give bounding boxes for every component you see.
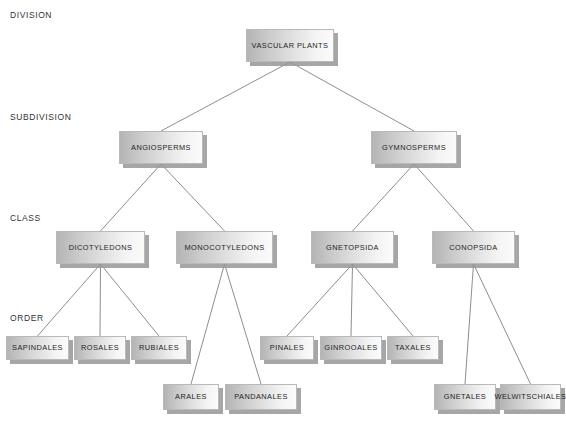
rank-label-order: ORDER: [10, 313, 44, 323]
node-label-sapindales: SAPINDALES: [12, 344, 63, 351]
node-label-angiosperms: ANGIOSPERMS: [131, 144, 191, 151]
node-taxales[interactable]: TAXALES: [387, 336, 439, 360]
edge-conopsida-to-welwitschiales: [474, 264, 531, 384]
edge-gymnosperms-to-gnetopsida: [353, 164, 415, 231]
edge-angiosperms-to-monocotyledons: [161, 164, 225, 231]
node-arales[interactable]: ARALES: [163, 384, 219, 410]
node-gnetales[interactable]: GNETALES: [434, 384, 496, 410]
edge-gnetopsida-to-pinales: [287, 264, 353, 336]
node-label-arales: ARALES: [175, 393, 207, 400]
node-welwitschiales[interactable]: WELWITSCHIALES: [500, 384, 561, 410]
edge-vascular-plants-to-angiosperms: [161, 62, 290, 131]
node-label-pinales: PINALES: [270, 344, 304, 351]
edge-vascular-plants-to-gymnosperms: [290, 62, 414, 131]
edge-gnetopsida-to-taxales: [353, 264, 414, 336]
node-gymnosperms[interactable]: GYMNOSPERMS: [371, 131, 457, 164]
edge-angiosperms-to-dicotyledons: [101, 164, 162, 231]
edge-monocotyledons-to-pandanales: [225, 264, 262, 384]
node-label-vascular-plants: VASCULAR PLANTS: [252, 42, 329, 49]
node-sapindales[interactable]: SAPINDALES: [6, 336, 69, 360]
node-label-dicotyledons: DICOTYLEDONS: [69, 244, 133, 251]
node-label-gnetales: GNETALES: [444, 393, 486, 400]
node-label-gymnosperms: GYMNOSPERMS: [382, 144, 446, 151]
edge-dicotyledons-to-sapindales: [38, 264, 101, 336]
node-dicotyledons[interactable]: DICOTYLEDONS: [56, 231, 145, 264]
node-rubiales[interactable]: RUBIALES: [131, 336, 187, 360]
rank-label-class: CLASS: [10, 213, 41, 223]
rank-label-subdivision: SUBDIVISION: [10, 112, 71, 122]
node-conopsida[interactable]: CONOPSIDA: [432, 231, 515, 264]
node-gnetopsida[interactable]: GNETOPSIDA: [311, 231, 394, 264]
node-label-rosales: ROSALES: [81, 344, 119, 351]
node-label-conopsida: CONOPSIDA: [449, 244, 497, 251]
edge-dicotyledons-to-rosales: [100, 264, 101, 336]
node-label-rubiales: RUBIALES: [139, 344, 179, 351]
edge-gymnosperms-to-conopsida: [414, 164, 474, 231]
node-vascular-plants[interactable]: VASCULAR PLANTS: [246, 29, 334, 62]
edge-monocotyledons-to-arales: [191, 264, 225, 384]
node-ginrooales[interactable]: GINROOALES: [320, 336, 382, 360]
node-label-gnetopsida: GNETOPSIDA: [326, 244, 379, 251]
edge-conopsida-to-gnetales: [465, 264, 474, 384]
edge-dicotyledons-to-rubiales: [101, 264, 160, 336]
node-label-taxales: TAXALES: [395, 344, 431, 351]
node-pandanales[interactable]: PANDANALES: [225, 384, 297, 410]
node-label-welwitschiales: WELWITSCHIALES: [495, 393, 566, 400]
node-rosales[interactable]: ROSALES: [74, 336, 126, 360]
rank-label-division: DIVISION: [10, 10, 52, 20]
node-angiosperms[interactable]: ANGIOSPERMS: [119, 131, 203, 164]
node-monocotyledons[interactable]: MONOCOTYLEDONS: [176, 231, 273, 264]
node-pinales[interactable]: PINALES: [260, 336, 314, 360]
node-label-ginrooales: GINROOALES: [324, 344, 377, 351]
node-label-monocotyledons: MONOCOTYLEDONS: [184, 244, 264, 251]
edge-gnetopsida-to-ginrooales: [351, 264, 353, 336]
node-label-pandanales: PANDANALES: [234, 393, 288, 400]
